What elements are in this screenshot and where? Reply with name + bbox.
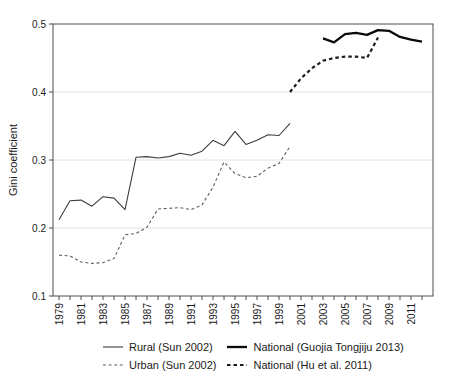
- legend: Rural (Sun 2002) National (Guojia Tongji…: [102, 341, 404, 371]
- x-tick-label: 2009: [384, 303, 395, 326]
- series-national_hu: [290, 38, 378, 92]
- y-tick-label: 0.1: [32, 291, 46, 302]
- legend-label-urban: Urban (Sun 2002): [129, 359, 216, 371]
- gini-line-chart: 0.10.20.30.40.51979198119831985198719891…: [0, 0, 451, 338]
- x-tick-label: 1983: [98, 303, 109, 326]
- legend-label-national-nbs: National (Guojia Tongjiju 2013): [253, 341, 403, 353]
- legend-item-rural: Rural (Sun 2002): [102, 341, 216, 353]
- national-hu-line-swatch-icon: [226, 359, 248, 371]
- figure: 0.10.20.30.40.51979198119831985198719891…: [0, 0, 451, 387]
- y-tick-label: 0.3: [32, 155, 46, 166]
- urban-line-swatch-icon: [102, 359, 124, 371]
- legend-label-rural: Rural (Sun 2002): [129, 341, 213, 353]
- x-tick-label: 1989: [164, 303, 175, 326]
- legend-item-national-hu: National (Hu et al. 2011): [226, 359, 403, 371]
- x-tick-label: 2003: [318, 303, 329, 326]
- x-tick-label: 1985: [120, 303, 131, 326]
- series-national_nbs: [323, 30, 422, 42]
- y-tick-label: 0.5: [32, 19, 46, 30]
- x-tick-label: 1997: [252, 303, 263, 326]
- x-tick-label: 1995: [230, 303, 241, 326]
- legend-item-national-nbs: National (Guojia Tongjiju 2013): [226, 341, 403, 353]
- y-tick-label: 0.4: [32, 87, 46, 98]
- x-tick-label: 1987: [142, 303, 153, 326]
- x-tick-label: 1979: [54, 303, 65, 326]
- y-axis-label: Gini coefficient: [7, 24, 21, 296]
- rural-line-swatch-icon: [102, 341, 124, 353]
- x-tick-label: 1999: [274, 303, 285, 326]
- national-nbs-line-swatch-icon: [226, 341, 248, 353]
- series-rural: [59, 123, 290, 220]
- x-tick-label: 2011: [406, 303, 417, 325]
- x-tick-label: 1991: [186, 303, 197, 326]
- legend-label-national-hu: National (Hu et al. 2011): [253, 359, 371, 371]
- x-tick-label: 2007: [362, 303, 373, 326]
- x-tick-label: 2005: [340, 303, 351, 326]
- x-tick-label: 1993: [208, 303, 219, 326]
- y-tick-label: 0.2: [32, 223, 46, 234]
- x-tick-label: 1981: [76, 303, 87, 326]
- legend-item-urban: Urban (Sun 2002): [102, 359, 216, 371]
- x-tick-label: 2001: [296, 303, 307, 326]
